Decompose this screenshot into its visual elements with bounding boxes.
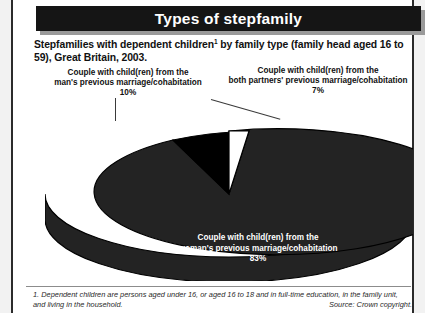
subtitle-part-1: Stepfamilies with dependent children (34, 39, 214, 50)
callout-both-line2: both partners' previous marriage/cohabit… (212, 76, 424, 86)
figure-page: Types of stepfamily Stepfamilies with de… (0, 0, 425, 313)
callout-man-line1: Couple with child(ren) from the (28, 68, 228, 78)
callout-both-slice: Couple with child(ren) from the both par… (212, 66, 424, 96)
callout-woman-line1: Couple with child(ren) from the (133, 233, 383, 244)
footnote: 1. Dependent children are persons aged u… (33, 290, 412, 310)
figure-card: Types of stepfamily Stepfamilies with de… (11, 0, 414, 313)
callout-man-line2: man's previous marriage/cohabitation (28, 78, 228, 88)
callout-both-line1: Couple with child(ren) from the (212, 66, 424, 76)
callout-man-slice: Couple with child(ren) from the man's pr… (28, 68, 228, 98)
callout-man-value: 10% (28, 88, 228, 98)
pie-chart: Couple with child(ren) from the man's pr… (26, 66, 425, 286)
callout-both-value: 7% (212, 86, 424, 96)
source-credit: Source: Crown copyright. (329, 300, 412, 310)
chart-subtitle: Stepfamilies with dependent children1 by… (34, 38, 412, 64)
page-title: Types of stepfamily (36, 6, 421, 31)
title-bar: Types of stepfamily (36, 6, 421, 31)
pie-graphic: Couple with child(ren) from the woman's … (45, 107, 413, 281)
callout-woman-line2: woman's previous marriage/cohabitation (133, 244, 383, 255)
footnote-divider (26, 286, 411, 287)
callout-woman-value: 83% (133, 254, 383, 265)
callout-woman-slice: Couple with child(ren) from the woman's … (133, 233, 383, 265)
